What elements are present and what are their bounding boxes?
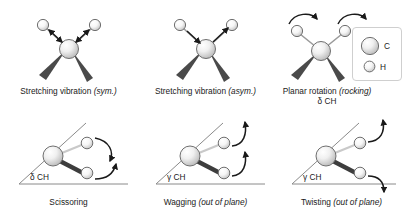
molecule-stretching-asym xyxy=(137,4,274,86)
caption-main: Stretching vibration xyxy=(20,86,91,96)
atom-hydrogen-upper xyxy=(354,137,366,149)
atom-carbon xyxy=(60,40,79,59)
arrow-stretch-right xyxy=(213,28,228,42)
atom-carbon xyxy=(180,146,200,166)
atom-carbon xyxy=(316,146,336,166)
caption-italic: (out of plane) xyxy=(198,197,247,207)
atom-hydrogen-left xyxy=(174,19,185,30)
atom-hydrogen-lower xyxy=(354,167,366,179)
atom-hydrogen-right xyxy=(339,25,350,36)
panel-twisting: γ CH Twisting (out of plane) xyxy=(273,112,410,212)
panel-caption: Stretching vibration (asym.) xyxy=(137,86,274,96)
caption-italic: (rocking) xyxy=(339,86,371,96)
panel-caption: Stretching vibration (sym.) xyxy=(0,86,137,96)
panel-wagging: γ CH Wagging (out of plane) xyxy=(137,112,274,212)
atom-carbon xyxy=(312,42,331,61)
hydrogen-sphere-icon xyxy=(363,60,376,73)
molecule-twisting: γ CH xyxy=(273,112,410,196)
angle-label: γ CH xyxy=(303,172,321,182)
panel-stretching-asym: Stretching vibration (asym.) xyxy=(137,4,274,104)
atom-legend: C H xyxy=(352,27,402,81)
caption-italic: (out of plane) xyxy=(333,197,382,207)
caption-main: Scissoring xyxy=(49,197,87,207)
panel-caption: Planar rotation (rocking) xyxy=(262,86,392,96)
caption-italic: (sym.) xyxy=(94,86,117,96)
atom-hydrogen-lower xyxy=(218,167,230,179)
legend-row-hydrogen: H xyxy=(363,60,386,73)
caption-main: Stretching vibration xyxy=(155,86,226,96)
panel-caption: Wagging (out of plane) xyxy=(137,197,274,207)
panel-scissoring: δ CH Scissoring xyxy=(0,112,137,212)
arrow-scissor-upper xyxy=(95,138,111,161)
angle-label: γ CH xyxy=(167,172,185,182)
arrow-rock-left xyxy=(289,14,317,24)
caption-main: Twisting xyxy=(301,197,331,207)
molecule-wagging: γ CH xyxy=(137,112,274,196)
panel-stretching-sym: Stretching vibration (sym.) xyxy=(0,4,137,104)
legend-row-carbon: C xyxy=(360,36,390,56)
panel-caption: Twisting (out of plane) xyxy=(273,197,410,207)
legend-label-carbon: C xyxy=(384,41,390,51)
arrow-stretch-left xyxy=(49,30,62,42)
atom-hydrogen-lower xyxy=(81,167,93,179)
caption-main: Wagging xyxy=(164,197,196,207)
atom-hydrogen-left xyxy=(291,25,302,36)
atom-hydrogen-upper xyxy=(81,137,93,149)
panel-subcaption: δ CH xyxy=(262,96,392,106)
arrow-rock-right xyxy=(338,14,366,24)
arrow-stretch-right xyxy=(76,30,89,42)
atom-hydrogen-right xyxy=(89,19,100,30)
molecule-scissoring: δ CH xyxy=(0,112,137,196)
arrow-wag-lower xyxy=(232,152,246,176)
arrow-twist-upper xyxy=(368,120,383,142)
atom-hydrogen-left xyxy=(37,19,48,30)
arrow-scissor-lower xyxy=(95,164,116,179)
atom-hydrogen-upper xyxy=(218,137,230,149)
vibration-modes-figure: Stretching vibration (sym.) Stretching v… xyxy=(0,0,410,214)
atom-carbon xyxy=(43,146,63,166)
arrow-stretch-left xyxy=(187,31,200,43)
legend-label-hydrogen: H xyxy=(380,62,386,72)
carbon-sphere-icon xyxy=(360,36,380,56)
caption-italic: (asym.) xyxy=(228,86,256,96)
angle-label: δ CH xyxy=(30,172,49,182)
molecule-stretching-sym xyxy=(0,4,137,86)
arrow-wag-upper xyxy=(232,122,246,146)
caption-main: Planar rotation xyxy=(283,86,337,96)
panel-caption: Scissoring xyxy=(0,197,137,207)
